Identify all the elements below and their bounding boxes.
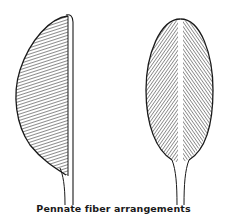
central-tendon <box>172 160 177 205</box>
bipennate-muscle <box>140 15 218 205</box>
pennate-fiber-diagram <box>0 0 227 221</box>
figure-caption: Pennate fiber arrangements <box>0 203 227 214</box>
unipennate-muscle <box>0 0 80 205</box>
